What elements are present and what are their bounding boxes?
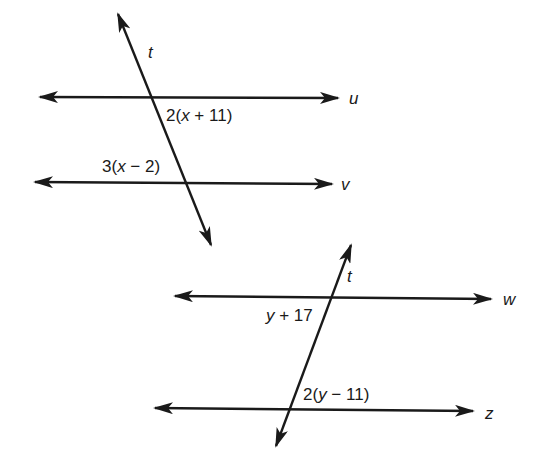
top-figure: t u v 2(x + 11) 3(x − 2) — [35, 14, 359, 245]
bottom-figure: t w z y + 17 2(y − 11) — [155, 245, 517, 446]
transversal-t-bottom — [276, 245, 351, 446]
angle-label-3x-minus-2: 3(x − 2) — [102, 157, 160, 176]
transversal-t-top — [118, 14, 211, 245]
parallel-lines-diagram: t u v 2(x + 11) 3(x − 2) t w z y + 17 2(… — [0, 0, 534, 458]
line-z — [155, 408, 473, 411]
label-v: v — [341, 175, 351, 194]
label-w: w — [503, 290, 517, 309]
line-v — [35, 182, 332, 184]
angle-label-y-plus-17: y + 17 — [265, 306, 313, 325]
label-z: z — [484, 404, 494, 423]
angle-label-2x-plus-11: 2(x + 11) — [166, 106, 232, 125]
line-u — [40, 97, 338, 98]
label-u: u — [349, 89, 359, 108]
label-t-top: t — [148, 43, 154, 62]
label-t-bottom: t — [347, 267, 353, 286]
angle-label-2y-minus-11: 2(y − 11) — [303, 385, 369, 404]
